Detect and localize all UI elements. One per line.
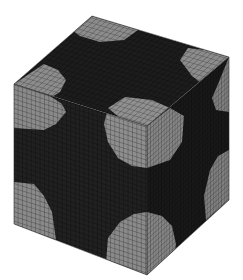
mesh-cube-figure <box>0 0 243 280</box>
mesh-cube-svg <box>0 0 243 280</box>
